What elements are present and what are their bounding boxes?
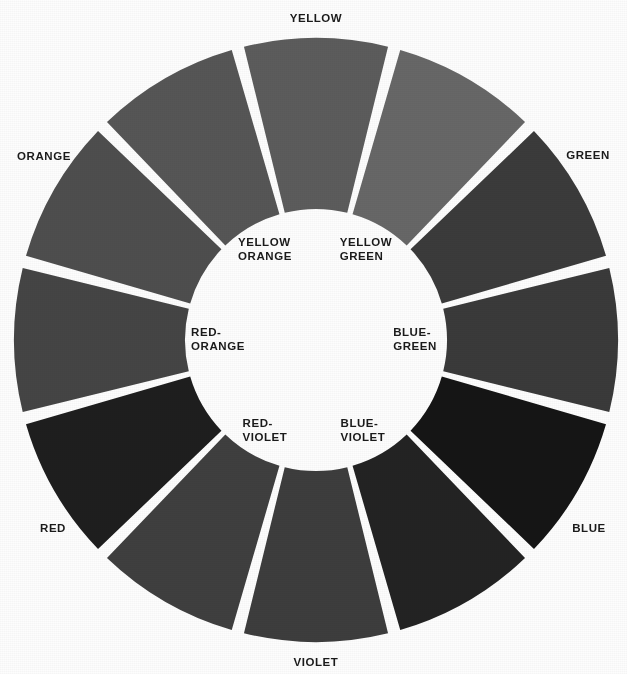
outer-label-violet: VIOLET — [294, 655, 339, 669]
inner-label-line-2: VIOLET — [243, 430, 288, 444]
inner-label-red-orange: RED-ORANGE — [191, 325, 245, 353]
inner-label-line-2: ORANGE — [191, 339, 245, 353]
inner-label-line-2: ORANGE — [238, 249, 292, 263]
inner-label-line-1: BLUE- — [341, 416, 386, 430]
inner-label-yellow-orange: YELLOWORANGE — [238, 235, 292, 263]
inner-label-line-1: BLUE- — [393, 325, 437, 339]
inner-label-line-1: RED- — [243, 416, 288, 430]
outer-label-red: RED — [40, 521, 66, 535]
inner-label-line-2: VIOLET — [341, 430, 386, 444]
outer-label-orange: ORANGE — [17, 149, 71, 163]
color-wheel-svg — [0, 0, 627, 674]
inner-label-line-1: YELLOW — [238, 235, 292, 249]
inner-label-line-1: RED- — [191, 325, 245, 339]
inner-label-line-2: GREEN — [393, 339, 437, 353]
outer-label-green: GREEN — [566, 148, 610, 162]
inner-label-red-violet: RED-VIOLET — [243, 416, 288, 444]
inner-label-blue-violet: BLUE-VIOLET — [341, 416, 386, 444]
inner-label-line-2: GREEN — [340, 249, 393, 263]
color-wheel-figure: YELLOWGREENBLUEVIOLETREDORANGEYELLOWGREE… — [0, 0, 627, 674]
outer-label-blue: BLUE — [572, 521, 606, 535]
inner-label-yellow-green: YELLOWGREEN — [340, 235, 393, 263]
color-wheel-wedges — [14, 38, 618, 642]
inner-label-line-1: YELLOW — [340, 235, 393, 249]
inner-label-blue-green: BLUE-GREEN — [393, 325, 437, 353]
outer-label-yellow: YELLOW — [290, 11, 343, 25]
